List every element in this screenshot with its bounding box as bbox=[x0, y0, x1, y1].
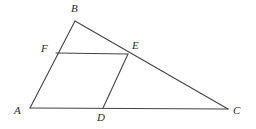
vertex-label-A: A bbox=[14, 105, 21, 116]
geometry-canvas bbox=[0, 0, 256, 129]
vertex-label-F: F bbox=[41, 43, 48, 54]
segment-DE bbox=[103, 54, 128, 108]
segment-FE bbox=[56, 53, 128, 54]
segment-BC bbox=[75, 21, 228, 109]
vertex-label-C: C bbox=[233, 105, 240, 116]
vertex-label-D: D bbox=[97, 112, 105, 123]
segment-AB bbox=[30, 21, 75, 108]
vertex-label-B: B bbox=[71, 3, 78, 14]
segment-AC bbox=[30, 108, 228, 109]
geometry-figure: A B C D E F bbox=[0, 0, 256, 129]
vertex-label-E: E bbox=[132, 40, 139, 51]
segments-group bbox=[30, 21, 228, 109]
